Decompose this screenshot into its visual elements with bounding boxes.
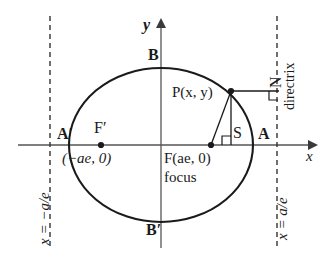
segment-focus-to-p — [211, 91, 231, 145]
label-focus-right: F(ae, 0) — [164, 151, 211, 166]
point-focus-right — [208, 142, 214, 148]
label-vertex-right: A — [258, 126, 270, 142]
label-focus-left: F′ — [94, 120, 106, 136]
label-directrix-left-equation: x = −a/e — [37, 192, 52, 245]
label-directrix-right-equation: x = a/e — [275, 197, 290, 240]
point-p — [228, 88, 234, 94]
x-axis-label: x — [306, 149, 313, 164]
label-point-p: P(x, y) — [172, 85, 213, 100]
point-focus-left — [98, 142, 104, 148]
label-directrix: directrix — [283, 63, 297, 110]
right-angle-marker-s — [222, 136, 231, 145]
figure-canvas: y x B B′ A′ A F′ (−ae, 0) F(ae, 0) focus… — [0, 0, 329, 259]
label-covertex-top: B — [148, 47, 159, 63]
label-focus-note: focus — [164, 170, 197, 185]
label-covertex-bottom: B′ — [146, 222, 161, 238]
y-axis-label: y — [143, 17, 150, 33]
label-focus-left-coords: (−ae, 0) — [62, 151, 111, 166]
label-point-s: S — [233, 125, 242, 141]
label-vertex-left: A′ — [57, 126, 73, 142]
